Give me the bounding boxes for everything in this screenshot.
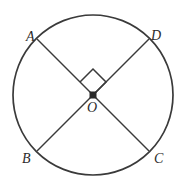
point-label-a: A: [26, 30, 35, 44]
point-label-d: D: [151, 29, 161, 43]
right-angle-marker-icon: [80, 69, 106, 95]
center-dot-icon: [90, 92, 97, 99]
point-label-c: C: [154, 152, 163, 166]
point-label-b: B: [22, 152, 31, 166]
point-label-o: O: [87, 101, 97, 115]
geometry-figure: A D B C O: [0, 0, 184, 187]
